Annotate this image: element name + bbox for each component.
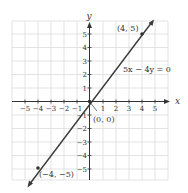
equation-label: 5x − 4y = 0	[123, 65, 171, 74]
x-tick: −4	[33, 105, 44, 113]
x-axis-arrow-icon	[164, 99, 170, 104]
y-tick: 2	[83, 71, 87, 79]
x-axis-label: x	[175, 96, 180, 106]
y-tick: 1	[83, 85, 87, 93]
x-tick: 2	[114, 105, 118, 113]
label-point-origin: (0, 0)	[93, 115, 115, 124]
x-tick: 4	[140, 105, 145, 113]
x-tick: −3	[46, 105, 56, 113]
chart: −5 −4 −3 −2 −1 1 2 3 4 5 5 4 3 2 1 −1 −2…	[0, 0, 188, 193]
point-4-5	[140, 32, 144, 36]
y-tick: −4	[77, 152, 88, 160]
x-tick: 5	[153, 105, 157, 113]
origin-leader-line	[91, 103, 98, 111]
y-tick: 4	[83, 44, 88, 52]
label-point-neg4-neg5: (−4, −5)	[39, 170, 74, 179]
y-tick: −2	[77, 125, 87, 133]
point-origin	[88, 100, 92, 104]
label-point-4-5: (4, 5)	[117, 24, 139, 33]
x-tick: 3	[127, 105, 131, 113]
y-axis-arrow-icon	[87, 22, 92, 28]
y-tick: 3	[83, 58, 87, 66]
y-tick: −5	[77, 166, 87, 174]
x-tick: −2	[59, 105, 69, 113]
x-tick: 1	[101, 105, 105, 113]
y-axis-label: y	[85, 11, 92, 21]
x-tick: −5	[20, 105, 30, 113]
y-tick: −3	[77, 139, 87, 147]
y-tick: 5	[83, 31, 87, 39]
